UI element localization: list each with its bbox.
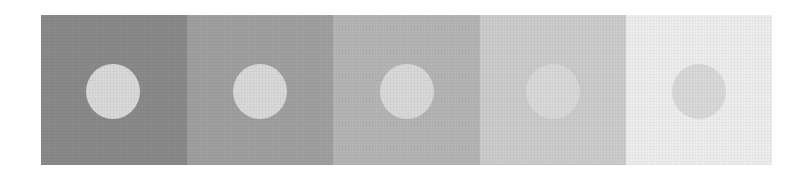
gray-disc-2: [233, 64, 287, 119]
gray-disc-1: [86, 64, 140, 119]
gray-panel-1: [41, 15, 187, 165]
gray-disc-4: [526, 64, 580, 119]
gray-panel-5: [626, 15, 772, 165]
contrast-illusion-strip: [41, 15, 772, 165]
gray-disc-3: [380, 64, 434, 119]
gray-disc-5: [672, 64, 726, 119]
gray-panel-2: [187, 15, 333, 165]
gray-panel-3: [333, 15, 480, 165]
gray-panel-4: [480, 15, 626, 165]
